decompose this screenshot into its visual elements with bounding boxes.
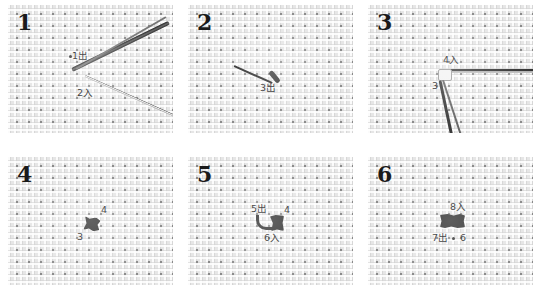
stitch-label-point: 3 [77,232,83,242]
stitch-label-in: 8入 [450,202,466,212]
step-number: 1 [17,11,32,33]
thread [448,69,533,71]
stitch-label-in: 6入 [264,233,280,243]
step-panel-2: 2 3出 [188,5,353,133]
needle [446,71,533,73]
stitch-label-out: 3出 [260,83,276,93]
needle [85,75,173,118]
stitch-label-point: 6 [460,233,466,243]
thread [76,16,167,70]
hole-marker [452,237,455,240]
step-number: 3 [377,11,392,33]
stitch-label-out: 1出 [72,51,88,61]
fabric-hole [438,69,452,81]
step-panel-3: 3 4入 3 [368,5,533,133]
stitch-label-point: 4 [101,205,107,215]
step-number: 6 [377,163,392,185]
stitch-label-point: 4 [284,205,290,215]
step-panel-5: 5 5出 4 6入 [188,157,353,285]
stitch-label-point: 3 [432,81,438,91]
step-panel-1: 1 1出 2入 [8,5,173,133]
step-number: 5 [197,163,212,185]
stitch-label-out: 7出 [432,233,448,243]
step-number: 2 [197,11,212,33]
step-number: 4 [17,163,32,185]
stitch-label-out: 5出 [251,204,267,214]
stitch-label-in: 4入 [443,55,459,65]
step-panel-6: 6 8入 7出 6 [368,157,533,285]
cross-stitch [83,216,101,232]
step-panel-4: 4 4 3 [8,157,173,285]
stitch-label-in: 2入 [77,88,93,98]
cross-stitch-pair [440,214,465,228]
